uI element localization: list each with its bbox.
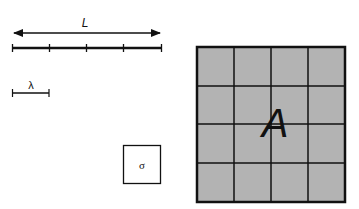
sigma-label: σ xyxy=(139,159,145,171)
sigma-box: σ xyxy=(124,146,161,184)
area-label: A xyxy=(260,101,289,145)
length-arrow: L xyxy=(14,16,160,33)
ruler xyxy=(12,44,162,52)
area-grid: A xyxy=(197,47,345,202)
length-label: L xyxy=(82,16,89,30)
diagram-canvas: L λ σ A xyxy=(0,0,359,209)
wavelength-scale: λ xyxy=(12,79,49,97)
wavelength-label: λ xyxy=(28,79,34,91)
